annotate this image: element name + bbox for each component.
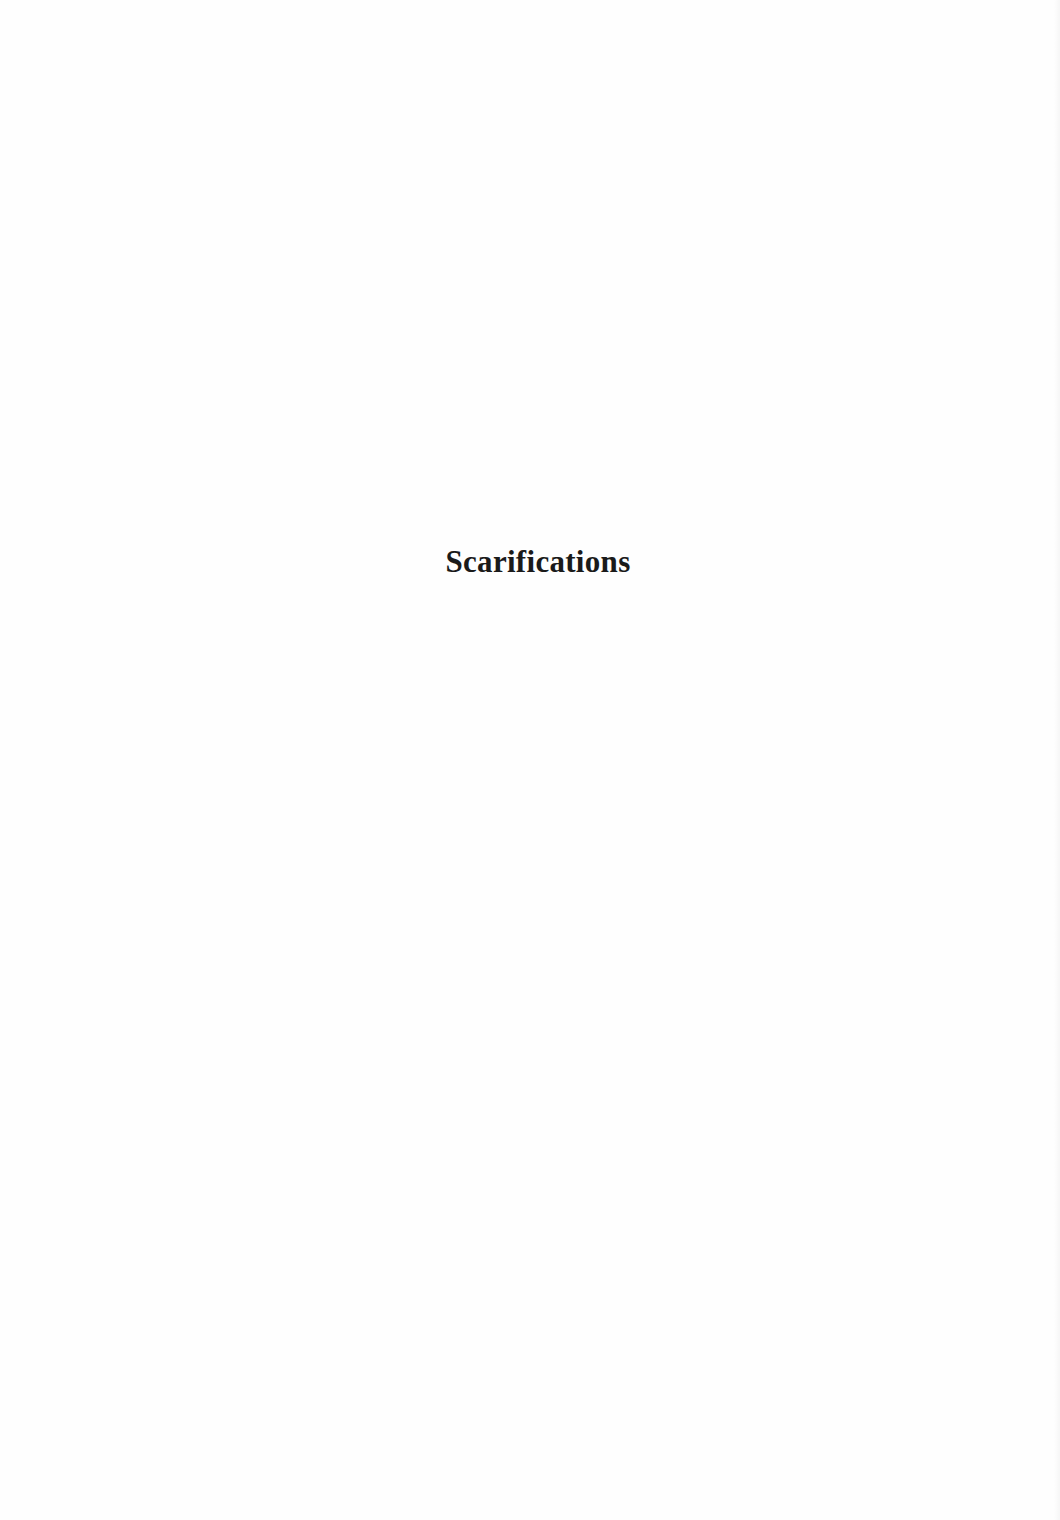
page-title: Scarifications	[0, 546, 1060, 577]
page-edge-shadow	[1054, 0, 1060, 1520]
book-page: Scarifications	[0, 0, 1060, 1520]
